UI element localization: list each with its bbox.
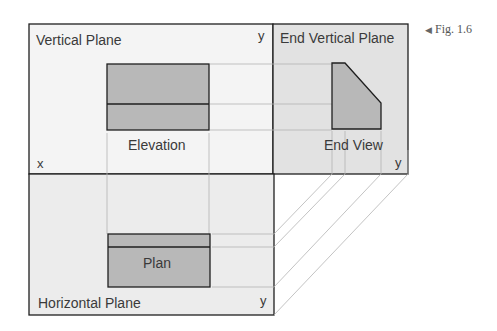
orthographic-projection-diagram	[0, 0, 497, 331]
figure-caption: ◀ Fig. 1.6	[425, 22, 472, 37]
figure-label: Fig. 1.6	[435, 22, 472, 36]
elevation-label: Elevation	[128, 138, 186, 152]
plan-label: Plan	[143, 256, 171, 270]
x-axis-label: x	[37, 157, 44, 170]
vertical-plane-title: Vertical Plane	[36, 33, 122, 47]
horizontal-plane-title: Horizontal Plane	[38, 296, 141, 310]
horizontal-plane-y-label: y	[260, 294, 267, 307]
pointer-left-icon: ◀	[425, 25, 432, 35]
vertical-plane-y-label: y	[258, 29, 265, 42]
end-plane-y-label: y	[395, 156, 402, 169]
end-vertical-plane-title: End Vertical Plane	[280, 31, 394, 45]
end-view-label: End View	[324, 138, 383, 152]
elevation-shape	[107, 64, 209, 130]
